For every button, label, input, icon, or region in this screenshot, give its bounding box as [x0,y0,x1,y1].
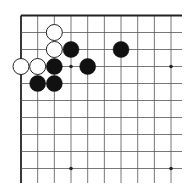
star-point [69,167,73,171]
white-stone[interactable] [46,42,62,58]
black-stone[interactable] [113,42,129,58]
star-point [169,167,173,171]
black-stone[interactable] [30,76,46,92]
star-point [169,65,173,69]
board-grid [21,16,182,184]
black-stone[interactable] [63,42,79,58]
star-point [69,65,73,69]
white-stone[interactable] [30,59,46,75]
black-stone[interactable] [46,59,62,75]
black-stone[interactable] [80,59,96,75]
black-stone[interactable] [46,76,62,92]
go-board[interactable] [0,0,193,192]
white-stone[interactable] [13,59,29,75]
white-stone[interactable] [46,25,62,41]
